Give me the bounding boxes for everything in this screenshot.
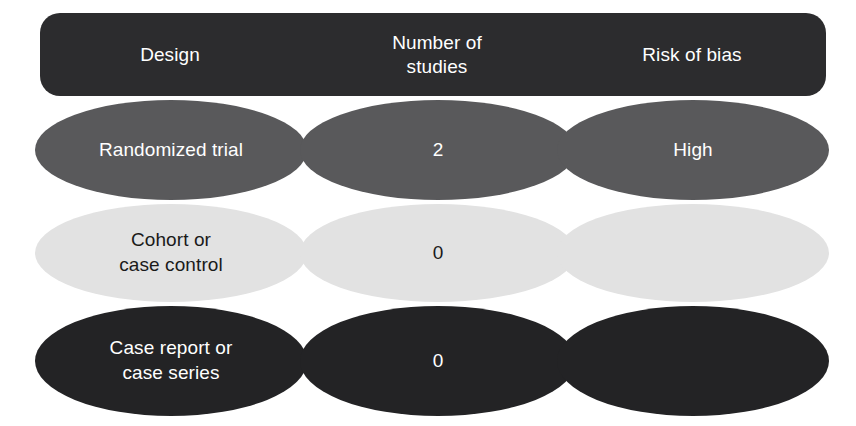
cell-number-of-studies: 0 [433,241,444,266]
column-header-design-label: Design [140,43,200,66]
cell-design: Case report or case series [110,336,233,385]
cell-design: Randomized trial [99,138,243,163]
cell-risk-of-bias: High [673,138,712,163]
table-row: Case report or case series [35,306,307,416]
table-row [557,204,829,302]
table-row [557,306,829,416]
table-row: Cohort or case control [35,204,307,302]
column-header-risk-of-bias: Risk of bias [557,13,827,96]
cell-number-of-studies: 0 [433,349,444,374]
table-row: 0 [300,204,576,302]
column-header-design: Design [35,13,305,96]
column-header-number-of-studies-label: Number of studies [392,31,482,77]
table-row: 2 [300,100,576,200]
cell-design: Cohort or case control [119,228,223,277]
column-header-risk-of-bias-label: Risk of bias [642,43,741,66]
table-row: 0 [300,306,576,416]
table-row: Randomized trial [35,100,307,200]
evidence-summary-figure: Design Number of studies Risk of bias Ra… [0,0,856,426]
column-header-number-of-studies: Number of studies [302,13,572,96]
table-header-bar: Design Number of studies Risk of bias [40,13,826,96]
table-row: High [557,100,829,200]
cell-number-of-studies: 2 [433,138,444,163]
